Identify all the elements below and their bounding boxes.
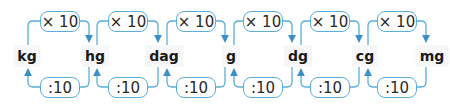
unit-mg: mg: [416, 45, 449, 67]
multiply-box: × 10: [243, 11, 283, 32]
unit-dg: dg: [284, 45, 312, 67]
divide-box: :10: [310, 77, 350, 98]
multiply-box: × 10: [377, 11, 417, 32]
multiply-box: × 10: [176, 11, 216, 32]
divide-box: :10: [377, 77, 417, 98]
divide-box: :10: [176, 77, 216, 98]
unit-kg: kg: [13, 45, 40, 67]
unit-g: g: [222, 45, 240, 67]
multiply-box: × 10: [108, 11, 148, 32]
multiply-box: × 10: [40, 11, 80, 32]
divide-box: :10: [108, 77, 148, 98]
unit-dag: dag: [145, 45, 183, 67]
multiply-box: × 10: [310, 11, 350, 32]
divide-box: :10: [243, 77, 283, 98]
unit-hg: hg: [81, 45, 109, 67]
unit-cg: cg: [352, 45, 378, 67]
divide-box: :10: [40, 77, 80, 98]
